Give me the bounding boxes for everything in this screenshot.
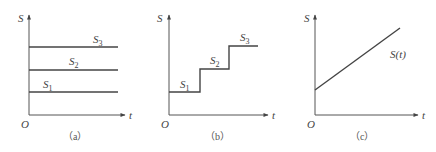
origin-label: O [307, 118, 315, 130]
x-axis-label: t [422, 109, 426, 121]
label-s-t: S(t) [390, 48, 406, 61]
label-s2: S2 [210, 54, 220, 69]
label-s1: S1 [180, 78, 190, 93]
origin-label: O [161, 118, 169, 130]
label-s3: S3 [93, 33, 103, 48]
caption-c: （c） [350, 131, 374, 142]
origin-label: O [21, 118, 29, 130]
label-s1: S1 [43, 78, 53, 93]
panel-b: S t O S1 S2 S3 （b） [157, 12, 276, 142]
figure: S t O S3 S2 S1 （a） S t O S1 S2 S3 （b） S … [0, 0, 436, 152]
y-axis-label: S [157, 12, 163, 24]
caption-a: （a） [63, 131, 87, 142]
label-s3: S3 [240, 31, 250, 46]
caption-b: （b） [205, 131, 230, 142]
y-axis-label: S [304, 12, 310, 24]
y-axis-label: S [18, 12, 24, 24]
label-s2: S2 [69, 55, 79, 70]
panel-a: S t O S3 S2 S1 （a） [18, 12, 133, 142]
x-axis-label: t [272, 109, 276, 121]
x-axis-label: t [129, 109, 133, 121]
line-s-t [315, 28, 400, 90]
panel-c: S t O S(t) （c） [304, 12, 426, 142]
